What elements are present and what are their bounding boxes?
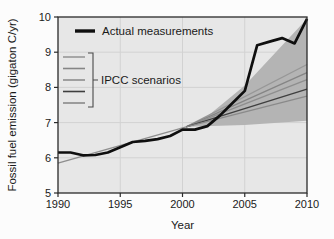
y-tick-label: 5: [45, 187, 51, 199]
y-tick-label: 8: [45, 81, 51, 93]
y-tick-label: 9: [45, 46, 51, 58]
x-tick-label: 2010: [295, 198, 319, 210]
x-axis-title: Year: [171, 219, 194, 231]
y-axis: 5678910: [39, 11, 58, 199]
emissions-chart: 199019952000200520105678910YearFossil fu…: [0, 0, 334, 239]
legend-scenarios-label: IPCC scenarios: [101, 74, 181, 86]
y-tick-label: 7: [45, 117, 51, 129]
y-tick-label: 6: [45, 152, 51, 164]
y-tick-label: 10: [39, 11, 51, 23]
emissions-vs-scenarios-figure: 199019952000200520105678910YearFossil fu…: [0, 0, 334, 239]
x-tick-label: 1990: [46, 198, 70, 210]
x-tick-label: 2005: [233, 198, 257, 210]
x-axis: 19901995200020052010: [46, 193, 319, 210]
x-tick-label: 1995: [108, 198, 132, 210]
legend-actual-label: Actual measurements: [102, 25, 213, 37]
x-tick-label: 2000: [170, 198, 194, 210]
y-axis-title: Fossil fuel emission (gigaton C/yr): [6, 18, 18, 191]
